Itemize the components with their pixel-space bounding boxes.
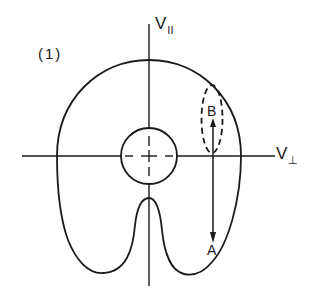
point-a-label: A (207, 243, 216, 257)
v-parallel-symbol: V (155, 14, 166, 33)
double-arrow (210, 118, 216, 243)
point-b-label: B (207, 104, 216, 118)
panel-label: (1) (38, 46, 62, 61)
arrowhead-up-icon (210, 118, 216, 127)
dashed-ellipse (202, 85, 223, 153)
v-perp-label: V⊥ (276, 145, 298, 162)
v-parallel-subscript: II (167, 24, 173, 36)
v-perp-subscript: ⊥ (288, 154, 298, 166)
v-perp-symbol: V (276, 144, 287, 163)
v-parallel-label: VII (155, 15, 173, 32)
